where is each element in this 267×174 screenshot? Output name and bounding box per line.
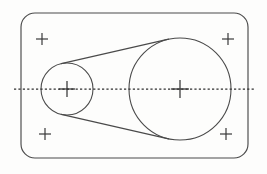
cross-center-small: [59, 81, 75, 97]
drawing-svg-root: [0, 0, 267, 174]
technical-drawing-canvas: [0, 0, 267, 174]
cross-bottom-left: [39, 128, 51, 140]
rounded-rectangle-plate: [21, 13, 248, 158]
belt-upper-tangent-line: [61, 39, 168, 64]
cross-top-right: [222, 33, 234, 45]
cross-center-large: [171, 80, 189, 98]
cross-bottom-right: [220, 128, 232, 140]
belt-lower-tangent-line: [61, 114, 168, 138]
cross-top-left: [36, 33, 48, 45]
